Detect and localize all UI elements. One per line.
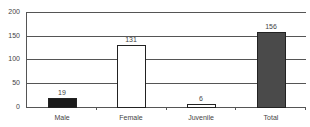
value-label-total: 156 (251, 23, 291, 30)
ytick-0: 0 (0, 103, 20, 110)
x-tick (235, 107, 236, 110)
x-tick (96, 107, 97, 110)
value-label-female: 131 (111, 36, 151, 43)
value-label-male: 19 (42, 89, 82, 96)
ytick-200: 200 (0, 8, 20, 15)
ytick-150: 150 (0, 32, 20, 39)
x-tick (166, 107, 167, 110)
value-label-juvenile: 6 (181, 95, 221, 102)
y-axis (26, 12, 27, 108)
x-label-total: Total (241, 114, 301, 121)
bar-chart: 0 50 100 150 200 19 131 6 156 Male Femal… (0, 0, 310, 127)
gridline-200 (26, 12, 306, 13)
bar-male (48, 98, 77, 108)
x-label-juvenile: Juvenile (171, 114, 231, 121)
x-label-male: Male (32, 114, 92, 121)
bar-total (257, 32, 286, 108)
ytick-50: 50 (0, 79, 20, 86)
bar-juvenile (187, 104, 216, 108)
x-tick (305, 107, 306, 110)
ytick-100: 100 (0, 55, 20, 62)
x-label-female: Female (101, 114, 161, 121)
bar-female (117, 45, 146, 108)
